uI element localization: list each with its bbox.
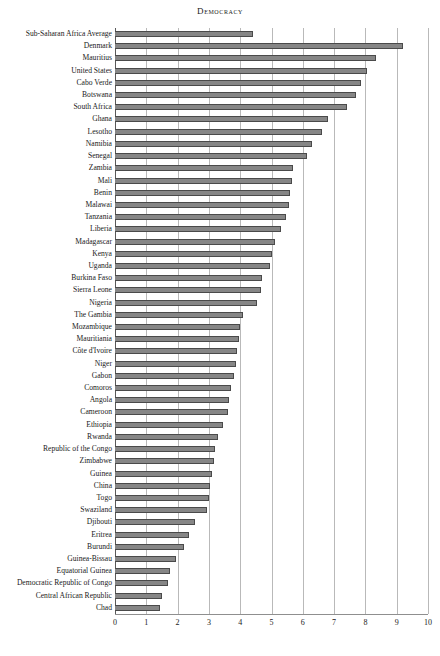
category-label: Denmark <box>84 40 112 52</box>
democracy-bar-chart: Democracy Sub-Saharan Africa AverageDenm… <box>0 0 440 656</box>
x-tick-label-8: 8 <box>363 618 367 627</box>
bar <box>115 348 237 354</box>
category-label: Burundi <box>87 541 112 553</box>
bar-row <box>115 40 428 52</box>
x-tick-label-0: 0 <box>113 618 117 627</box>
bar-row <box>115 419 428 431</box>
bar-row <box>115 492 428 504</box>
bar-row <box>115 162 428 174</box>
category-label: Burkina Faso <box>71 272 112 284</box>
x-tick-label-2: 2 <box>176 618 180 627</box>
bar-row <box>115 199 428 211</box>
category-label: Niger <box>95 358 112 370</box>
bar <box>115 287 261 293</box>
bar-row <box>115 577 428 589</box>
category-label: Malawai <box>85 199 112 211</box>
bar <box>115 324 240 330</box>
bar <box>115 544 184 550</box>
category-label: Liberia <box>90 223 112 235</box>
bar-row <box>115 187 428 199</box>
category-label: Equatorial Guinea <box>57 565 112 577</box>
bar <box>115 385 231 391</box>
bar-row <box>115 541 428 553</box>
category-label: Botswana <box>82 89 112 101</box>
category-label: Mozambique <box>72 321 112 333</box>
bar-row <box>115 126 428 138</box>
bar-row <box>115 297 428 309</box>
bar <box>115 226 281 232</box>
category-label: Namibia <box>86 138 112 150</box>
bar-row <box>115 236 428 248</box>
x-tick-label-4: 4 <box>238 618 242 627</box>
bar <box>115 263 270 269</box>
gridline-10 <box>428 28 429 614</box>
plot-area <box>115 28 428 614</box>
bar-row <box>115 321 428 333</box>
bar-series <box>115 28 428 614</box>
bar <box>115 55 376 61</box>
bar <box>115 153 307 159</box>
category-label: Mauritius <box>82 52 112 64</box>
category-label: Sub-Saharan Africa Average <box>26 28 112 40</box>
category-label: Tanzania <box>85 211 112 223</box>
bar <box>115 409 228 415</box>
category-label: Republic of the Congo <box>43 443 112 455</box>
bar <box>115 239 275 245</box>
bar <box>115 68 367 74</box>
bar <box>115 361 236 367</box>
category-label: Madagascar <box>75 236 112 248</box>
category-label: Benin <box>94 187 112 199</box>
category-label: Zambia <box>89 162 112 174</box>
bar <box>115 568 170 574</box>
category-label: Ghana <box>92 113 112 125</box>
category-label: Ethiopia <box>86 419 112 431</box>
category-label: Djibouti <box>87 516 112 528</box>
bar <box>115 251 272 257</box>
bar <box>115 92 356 98</box>
category-label: Swaziland <box>80 504 112 516</box>
bar-row <box>115 602 428 614</box>
bar-row <box>115 77 428 89</box>
bar-row <box>115 406 428 418</box>
category-label: South Africa <box>73 101 112 113</box>
bar <box>115 556 176 562</box>
bar <box>115 80 361 86</box>
bar-row <box>115 431 428 443</box>
bar <box>115 202 289 208</box>
bar <box>115 507 207 513</box>
category-label: Gabon <box>92 370 112 382</box>
bar <box>115 129 322 135</box>
bar <box>115 446 215 452</box>
category-label: Mali <box>98 175 112 187</box>
bar-row <box>115 150 428 162</box>
bar <box>115 458 214 464</box>
category-label: Kenya <box>92 248 112 260</box>
category-label: Sierra Leone <box>73 284 112 296</box>
x-tick-label-7: 7 <box>332 618 336 627</box>
x-tick-label-6: 6 <box>301 618 305 627</box>
category-label: China <box>94 480 112 492</box>
bar-row <box>115 333 428 345</box>
bar-row <box>115 504 428 516</box>
category-label: United States <box>71 65 112 77</box>
bar <box>115 422 223 428</box>
x-tick-label-9: 9 <box>395 618 399 627</box>
bar-row <box>115 52 428 64</box>
bar-row <box>115 516 428 528</box>
bar-row <box>115 394 428 406</box>
category-label: Angola <box>90 394 112 406</box>
bar <box>115 605 160 611</box>
bar-row <box>115 113 428 125</box>
bar-row <box>115 248 428 260</box>
category-label: Guinea <box>90 468 112 480</box>
bar-row <box>115 138 428 150</box>
bar <box>115 165 293 171</box>
category-label: Cameroon <box>80 406 112 418</box>
bar-row <box>115 455 428 467</box>
bar <box>115 532 189 538</box>
category-label: Chad <box>96 602 112 614</box>
bar <box>115 519 195 525</box>
category-label: Lesotho <box>88 126 112 138</box>
bar <box>115 373 234 379</box>
bar <box>115 300 257 306</box>
